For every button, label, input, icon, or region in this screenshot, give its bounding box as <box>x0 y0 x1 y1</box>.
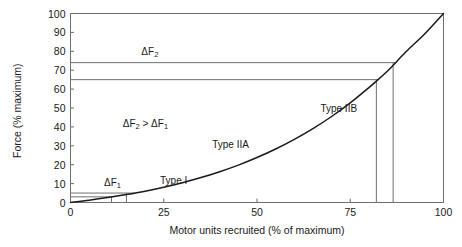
y-axis-tick-label: 20 <box>40 160 66 171</box>
y-axis-tick-label: 40 <box>40 122 66 133</box>
x-axis-tick-label: 100 <box>429 207 459 218</box>
x-axis-tick-label: 25 <box>149 207 179 218</box>
y-axis-tick-label: 10 <box>40 179 66 190</box>
x-axis-tick-label: 50 <box>242 207 272 218</box>
y-axis-tick-label: 70 <box>40 65 66 76</box>
annotation-delta-f2: ΔF2 <box>141 47 158 58</box>
x-axis-tick-label: 75 <box>335 207 365 218</box>
y-axis-tick-label: 80 <box>40 46 66 57</box>
annotation-delta-f2-gt-f1: ΔF2 > ΔF1 <box>123 119 168 130</box>
annotation-type-i: Type I <box>160 176 187 186</box>
x-axis-tick-label: 0 <box>56 207 86 218</box>
y-axis-tick-label: 100 <box>40 9 66 20</box>
x-axis-title: Motor units recruited (% of maximum) <box>162 225 352 236</box>
y-axis-title: Force (% maximum) <box>12 63 23 158</box>
y-axis-tick-label: 50 <box>40 103 66 114</box>
chart-figure: 0102030405060708090100 0255075100 ΔF2ΔF2… <box>0 0 462 247</box>
annotation-type-iia: Type IIA <box>212 140 249 150</box>
annotation-type-iib: Type IIB <box>320 104 357 114</box>
y-axis-tick-label: 30 <box>40 141 66 152</box>
y-axis-tick-label: 60 <box>40 84 66 95</box>
y-axis-tick-label: 90 <box>40 27 66 38</box>
annotation-delta-f1: ΔF1 <box>104 178 121 189</box>
